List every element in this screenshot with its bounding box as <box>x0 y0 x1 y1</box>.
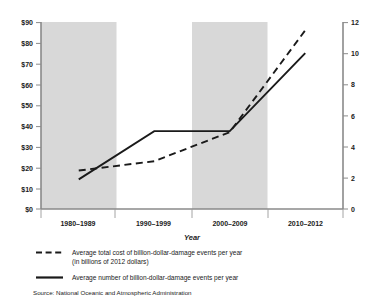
x-category-label-2000-2009: 2000–2009 <box>212 220 247 227</box>
x-category-label-1980-1989: 1980–1989 <box>60 220 95 227</box>
billion-dollar-damage-events-chart: $90 $80 $70 $60 $50 $40 $30 $20 $10 $0 1… <box>0 0 375 308</box>
right-tick-label-8: 8 <box>351 81 355 88</box>
left-tick-label-50: $50 <box>21 102 33 110</box>
left-tick-label-60: $60 <box>21 82 33 90</box>
left-tick-label-80: $80 <box>21 40 33 48</box>
chart-figure: $90 $80 $70 $60 $50 $40 $30 $20 $10 $0 1… <box>0 0 375 308</box>
right-tick-label-0: 0 <box>351 206 355 213</box>
source-note: Source: National Oceanic and Atmospheric… <box>33 289 192 296</box>
shaded-band-1980-1989 <box>41 22 117 209</box>
right-tick-label-10: 10 <box>351 50 359 57</box>
x-category-label-2010-2012: 2010–2012 <box>288 220 323 227</box>
left-tick-label-40: $40 <box>21 123 33 131</box>
legend-label-average-total-cost-line2: (in billions of 2012 dollars) <box>72 258 149 266</box>
right-tick-label-2: 2 <box>351 175 355 182</box>
left-tick-label-90: $90 <box>21 19 33 27</box>
left-tick-label-10: $10 <box>21 186 33 194</box>
left-tick-label-0: $0 <box>25 206 33 214</box>
left-tick-label-20: $20 <box>21 165 33 173</box>
left-tick-label-70: $70 <box>21 61 33 69</box>
legend-label-average-number-of-events: Average number of billion-dollar-damage … <box>72 274 239 282</box>
shaded-band-2000-2009 <box>192 22 268 209</box>
x-axis-title: Year <box>184 233 201 242</box>
right-tick-label-6: 6 <box>351 113 355 120</box>
left-tick-label-30: $30 <box>21 144 33 152</box>
legend-label-average-total-cost-line1: Average total cost of billion-dollar-dam… <box>72 249 243 257</box>
x-category-label-1990-1999: 1990–1999 <box>136 220 171 227</box>
right-tick-label-4: 4 <box>351 144 355 151</box>
right-tick-label-12: 12 <box>351 19 359 26</box>
